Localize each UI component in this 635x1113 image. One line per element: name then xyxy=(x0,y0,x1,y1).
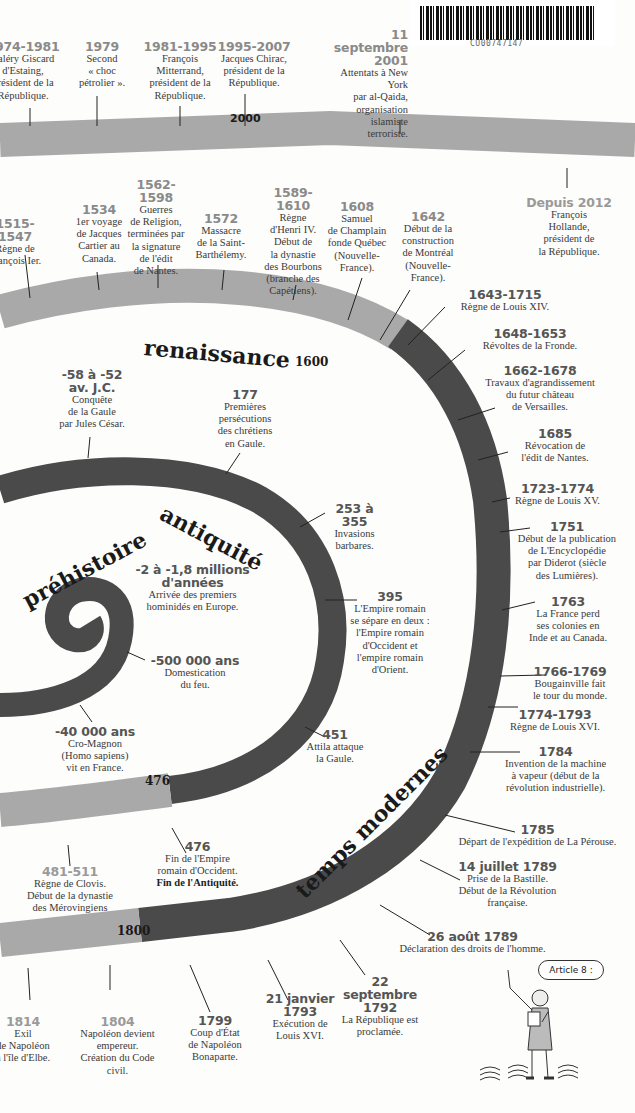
event-1642: 1642 Début de la construction de Montréa… xyxy=(397,210,459,284)
event-58-52-av-jc: -58 à -52 av. J.C. Conquête de la Gaule … xyxy=(52,368,132,431)
event-1974-1981: 1974-1981 Valéry Giscard d'Estaing, prés… xyxy=(0,40,68,102)
event-1515-1547: 1515-1547 Règne de François Ier. xyxy=(0,217,50,267)
event-1608: 1608 Samuel de Champlain fonde Québec (N… xyxy=(325,200,389,274)
event-481-511: 481-511 Règne de Clovis. Début de la dyn… xyxy=(20,865,120,915)
event-1766-1769: 1766-1769 Bougainville fait le tour du m… xyxy=(520,665,620,702)
event-depuis-2012: Depuis 2012 François Hollande, président… xyxy=(525,196,613,258)
marker-2000: 2000 xyxy=(230,112,261,125)
event-14-juillet-1789: 14 juillet 1789 Prise de la Bastille. Dé… xyxy=(445,860,570,910)
event-177: 177 Premières persécutions des chrétiens… xyxy=(210,388,280,450)
event-1774-1793: 1774-1793 Règne de Louis XVI. xyxy=(500,708,610,733)
event-1534: 1534 1er voyage de Jacques Cartier au Ca… xyxy=(70,203,128,265)
event-11-septembre-2001: 11 septembre 2001 Attentats à New York p… xyxy=(318,28,408,140)
marker-1600: 1600 xyxy=(295,355,328,369)
event-500000-ans: -500 000 ans Domestication du feu. xyxy=(145,654,245,691)
barcode-sticker xyxy=(410,0,615,85)
event-1723-1774: 1723-1774 Règne de Louis XV. xyxy=(505,482,610,507)
event-1643-1715: 1643-1715 Règne de Louis XIV. xyxy=(445,288,565,313)
event-21-janvier-1793: 21 janvier 1793 Exécution de Louis XVI. xyxy=(265,992,335,1042)
event-1799: 1799 Coup d'État de Napoléon Bonaparte. xyxy=(180,1014,250,1064)
band-moyen-age xyxy=(0,790,170,810)
marker-1800: 1800 xyxy=(117,924,150,938)
event-1981-1995: 1981-1995 François Mitterrand, président… xyxy=(142,40,218,102)
event-253-355: 253 à 355 Invasions barbares. xyxy=(322,502,387,552)
band-renaissance xyxy=(0,286,400,335)
event-26-aout-1789: 26 août 1789 Déclaration des droits de l… xyxy=(385,930,560,955)
event-1784: 1784 Invention de la machine à vapeur (d… xyxy=(483,745,628,795)
event-1648-1653: 1648-1653 Révoltes de la Fronde. xyxy=(465,327,595,352)
event-1979: 1979 Second « choc pétrolier ». xyxy=(72,40,132,90)
event-1763: 1763 La France perd ses colonies en Inde… xyxy=(518,595,618,645)
event-1589-1610: 1589-1610 Règne d'Henri IV. Début de la … xyxy=(260,186,326,297)
event-1562-1598: 1562-1598 Guerres de Religion, terminées… xyxy=(122,178,190,277)
event-40000-ans: -40 000 ans Cro-Magnon (Homo sapiens) vi… xyxy=(50,725,140,775)
band-prehistoire xyxy=(0,589,122,705)
event-1785: 1785 Départ de l'expédition de La Pérous… xyxy=(440,823,635,848)
event-451: 451 Attila attaque la Gaule. xyxy=(300,728,370,765)
event-1814: 1814 Exil de Napoléon à l'île d'Elbe. xyxy=(0,1015,58,1065)
event-22-septembre-1792: 22 septembre 1792 La République est proc… xyxy=(335,975,425,1038)
event-1995-2007: 1995-2007 Jacques Chirac, président de l… xyxy=(216,40,292,90)
event-476: 476 Fin de l'Empire romain d'Occident. F… xyxy=(150,840,245,890)
event-1804: 1804 Napoléon devient empereur. Création… xyxy=(75,1015,160,1077)
event-1685: 1685 Révocation de l'édit de Nantes. xyxy=(510,427,600,464)
marker-476: 476 xyxy=(145,774,170,788)
event-1751: 1751 Début de la publication de L'Encycl… xyxy=(502,520,632,582)
event-395: 395 L'Empire romain se sépare en deux : … xyxy=(340,590,440,676)
event-1572: 1572 Massacre de la Saint- Barthélemy. xyxy=(192,212,250,262)
event-2-millions: -2 à -1,8 millions d'années Arrivée des … xyxy=(130,563,255,613)
revolutionary-figure-illustration xyxy=(470,960,590,1090)
event-1662-1678: 1662-1678 Travaux d'agrandissement du fu… xyxy=(475,364,605,414)
